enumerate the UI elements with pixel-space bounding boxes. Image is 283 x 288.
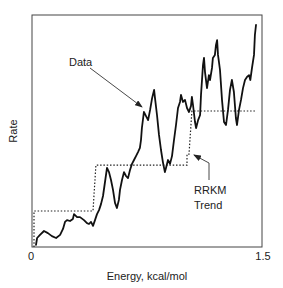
- rrkm-trend-line: [34, 111, 255, 247]
- rate-vs-energy-chart: Data RRKM Trend 0 1.5 Energy, kcal/mol R…: [0, 0, 283, 288]
- plot-frame: [32, 15, 262, 247]
- x-tick-max: 1.5: [255, 250, 270, 262]
- rrkm-annotation-arrow: [194, 155, 209, 180]
- rrkm-annotation-label-line1: RRKM: [194, 184, 226, 196]
- x-axis-label: Energy, kcal/mol: [107, 270, 188, 282]
- data-annotation-arrow: [90, 68, 142, 107]
- data-annotation-label: Data: [69, 56, 93, 68]
- x-tick-min: 0: [28, 250, 34, 262]
- rrkm-annotation-label-line2: Trend: [194, 199, 222, 211]
- y-axis-label: Rate: [7, 119, 19, 142]
